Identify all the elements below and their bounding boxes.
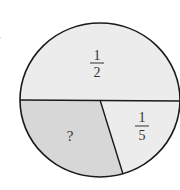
half-numerator: 1 [94, 48, 101, 63]
fifth-denominator: 5 [139, 128, 146, 143]
unknown-label: ? [67, 128, 74, 144]
half-denominator: 2 [94, 65, 101, 80]
fifth-numerator: 1 [139, 110, 146, 125]
fraction-circle-diagram: 1 2 1 5 ? [0, 0, 180, 190]
